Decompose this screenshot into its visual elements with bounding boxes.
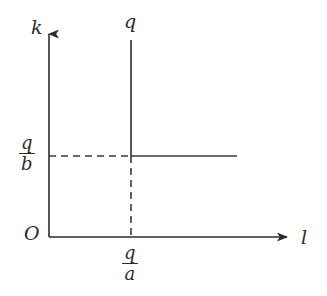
q-over-b-denominator: b <box>19 154 35 173</box>
isoquant-label: q <box>124 12 136 31</box>
isoquant-plot <box>0 0 327 296</box>
isoquant-figure: k l O q q b q a <box>0 0 327 296</box>
l-axis-value-q-over-a: q a <box>122 244 138 284</box>
origin-label: O <box>24 224 40 243</box>
q-over-a-denominator: a <box>122 264 137 283</box>
k-axis-value-q-over-b: q b <box>19 134 35 174</box>
q-over-b-numerator: q <box>19 134 35 153</box>
q-over-a-numerator: q <box>122 244 138 263</box>
k-axis-label: k <box>31 18 43 37</box>
l-axis-label: l <box>301 228 307 247</box>
